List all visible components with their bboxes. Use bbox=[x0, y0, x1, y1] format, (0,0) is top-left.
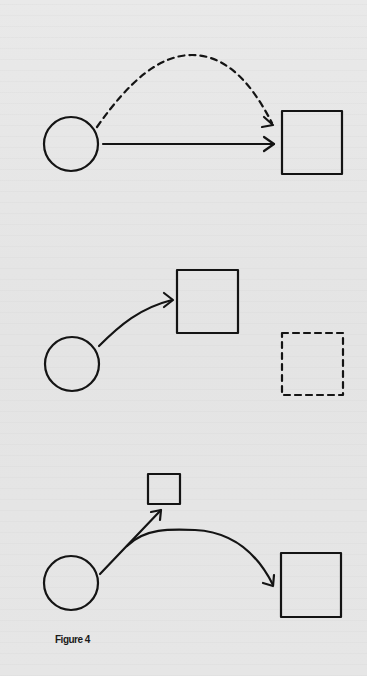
panel-1 bbox=[44, 55, 342, 174]
panel-1-dashed-arrow bbox=[97, 55, 272, 127]
panel-3 bbox=[44, 474, 341, 617]
panel-2-dashed-square bbox=[282, 333, 343, 395]
panel-1-square bbox=[282, 111, 342, 174]
panel-2 bbox=[45, 270, 343, 395]
panel-3-small-square bbox=[148, 474, 180, 504]
panel-2-circle bbox=[45, 337, 99, 391]
panel-2-curved-arrow bbox=[99, 300, 172, 346]
panel-3-large-square bbox=[281, 553, 341, 617]
figure-diagram bbox=[0, 0, 367, 676]
figure-caption: Figure 4 bbox=[55, 634, 90, 645]
panel-3-circle bbox=[44, 556, 98, 610]
panel-2-square bbox=[177, 270, 238, 333]
figure-page: Figure 4 bbox=[0, 0, 367, 676]
panel-3-curved-arrow bbox=[127, 530, 273, 585]
panel-1-circle bbox=[44, 117, 98, 171]
